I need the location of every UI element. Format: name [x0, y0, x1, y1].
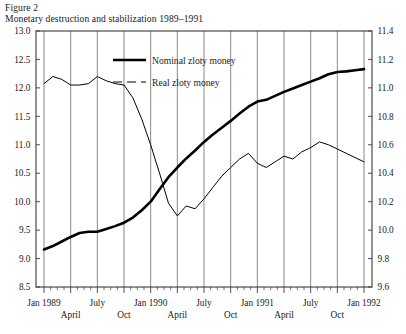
x-axis-label: July [303, 298, 319, 308]
grid-lines [44, 31, 364, 287]
x-axis-label: April [168, 310, 188, 320]
x-axis-label: Jan 1990 [134, 298, 168, 308]
y-axis-label-right: 11.0 [378, 83, 394, 93]
y-axis-label-right: 10.4 [378, 168, 395, 178]
y-axis-label-right: 9.8 [378, 254, 390, 264]
y-axis-label-right: 11.4 [378, 26, 394, 36]
y-axis-label-left: 8.5 [19, 282, 31, 292]
y-axis-label-right: 10.2 [378, 197, 395, 207]
x-axis-label: Oct [224, 310, 238, 320]
x-axis-label: Jan 1991 [241, 298, 275, 308]
chart-legend: Nominal zloty moneyReal zloty money [113, 55, 236, 88]
x-axis-label: Jan 1992 [347, 298, 381, 308]
x-axis-label: July [196, 298, 212, 308]
figure-container: Figure 2 Monetary destruction and stabil… [0, 0, 406, 334]
chart-canvas: 8.59.09.510.010.511.011.512.012.513.09.6… [0, 0, 406, 334]
y-axis-label-right: 10.8 [378, 112, 395, 122]
y-axis-label-left: 9.0 [19, 254, 31, 264]
y-axis-label-left: 13.0 [14, 26, 31, 36]
y-axis-label-left: 11.0 [15, 140, 31, 150]
y-axis-label-right: 10.0 [378, 225, 395, 235]
y-axis-label-right: 10.6 [378, 140, 395, 150]
y-axis-label-right: 11.2 [378, 55, 394, 65]
y-axis-label-left: 9.5 [19, 225, 31, 235]
legend-label-real: Real zloty money [152, 77, 220, 88]
y-axis-label-left: 10.5 [14, 168, 31, 178]
y-axis-label-left: 10.0 [14, 197, 31, 207]
y-axis-label-left: 11.5 [15, 112, 31, 122]
x-axis-label: Oct [331, 310, 345, 320]
y-axis-label-left: 12.5 [14, 55, 31, 65]
x-axis-label: April [61, 310, 81, 320]
x-axis-label: Oct [117, 310, 131, 320]
y-axis-label-right: 9.6 [378, 282, 390, 292]
figure-title: Monetary destruction and stabilization 1… [5, 13, 203, 25]
y-axis-label-left: 12.0 [14, 83, 31, 93]
x-axis-label: April [274, 310, 294, 320]
x-axis-label: July [90, 298, 106, 308]
x-axis-label: Jan 1989 [27, 298, 61, 308]
legend-label-nominal: Nominal zloty money [152, 55, 236, 66]
